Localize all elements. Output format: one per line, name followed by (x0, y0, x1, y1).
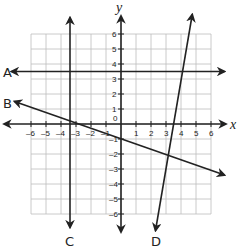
line-a-label: A (3, 65, 12, 80)
y-tick-label: –3 (109, 165, 118, 174)
x-axis-label: x (229, 117, 237, 132)
y-tick-label: 1 (112, 105, 117, 114)
origin-label: 0 (113, 114, 118, 123)
y-tick-label: 3 (112, 75, 117, 84)
x-tick-label: 4 (179, 129, 184, 138)
x-tick-label: –4 (56, 129, 65, 138)
y-tick-label: –5 (109, 195, 118, 204)
coordinate-plane: xy –6–5–4–3–2–10123456654321–1–2–3–4–5–6… (0, 0, 242, 249)
y-tick-label: 5 (112, 45, 117, 54)
x-tick-label: –2 (86, 129, 95, 138)
line-c-label: C (65, 234, 74, 249)
x-tick-label: –6 (26, 129, 35, 138)
y-tick-label: 6 (112, 30, 117, 39)
y-axis-label: y (114, 0, 123, 15)
x-tick-label: 5 (194, 129, 199, 138)
line-d (156, 15, 193, 231)
axes: xy (4, 0, 237, 232)
x-tick-label: 6 (209, 129, 214, 138)
x-tick-label: 2 (149, 129, 154, 138)
graphed-lines (12, 15, 225, 231)
y-tick-label: 4 (112, 60, 117, 69)
y-tick-label: –6 (109, 210, 118, 219)
y-tick-label: –2 (109, 150, 118, 159)
line-d-label: D (151, 234, 161, 249)
line-labels: ABCD (3, 65, 161, 249)
x-tick-label: –3 (71, 129, 80, 138)
x-tick-label: 1 (134, 129, 139, 138)
x-tick-label: 3 (164, 129, 169, 138)
line-b-label: B (3, 96, 12, 111)
x-tick-label: –5 (41, 129, 50, 138)
y-tick-label: 2 (112, 90, 117, 99)
y-tick-label: –4 (109, 180, 118, 189)
